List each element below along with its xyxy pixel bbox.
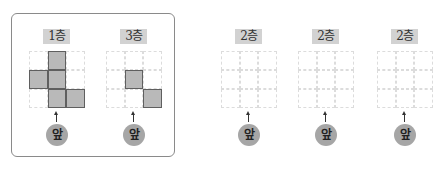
empty-grid-cell [240,51,259,70]
filled-cube-cell [29,70,48,89]
empty-grid-cell [29,89,48,108]
empty-grid-cell [317,89,336,108]
up-arrow-icon [325,113,326,122]
empty-grid-cell [377,70,396,89]
front-marker: 앞 [315,124,337,146]
filled-cube-cell [48,70,67,89]
empty-grid-cell [298,89,317,108]
floor-grid [377,51,433,108]
empty-grid-cell [240,89,259,108]
empty-grid-cell [106,70,125,89]
front-marker: 앞 [394,124,416,146]
floor-panel: 2층앞 [376,0,436,169]
up-arrow-icon [56,113,57,122]
filled-cube-cell [143,89,162,108]
empty-grid-cell [221,89,240,108]
floor-panel: 1층앞 [28,0,88,169]
empty-grid-cell [258,89,277,108]
filled-cube-cell [48,51,67,70]
front-marker: 앞 [123,124,145,146]
empty-grid-cell [221,51,240,70]
empty-grid-cell [377,89,396,108]
filled-cube-cell [125,70,144,89]
floor-panel: 2층앞 [220,0,280,169]
empty-grid-cell [258,70,277,89]
empty-grid-cell [317,51,336,70]
empty-grid-cell [396,51,415,70]
floor-label: 3층 [120,29,147,44]
empty-grid-cell [335,51,354,70]
empty-grid-cell [414,70,433,89]
empty-grid-cell [66,70,85,89]
empty-grid-cell [143,51,162,70]
floor-label: 1층 [43,29,70,44]
empty-grid-cell [298,70,317,89]
floor-grid [106,51,162,108]
empty-grid-cell [396,89,415,108]
front-marker: 앞 [46,124,68,146]
floor-label: 2층 [312,29,339,44]
empty-grid-cell [377,51,396,70]
empty-grid-cell [396,70,415,89]
empty-grid-cell [125,51,144,70]
up-arrow-icon [404,113,405,122]
floor-panel: 2층앞 [297,0,357,169]
front-marker: 앞 [238,124,260,146]
empty-grid-cell [143,70,162,89]
empty-grid-cell [335,89,354,108]
empty-grid-cell [125,89,144,108]
empty-grid-cell [258,51,277,70]
floor-grid [221,51,277,108]
floor-grid [29,51,85,108]
empty-grid-cell [29,51,48,70]
empty-grid-cell [414,51,433,70]
empty-grid-cell [414,89,433,108]
empty-grid-cell [317,70,336,89]
empty-grid-cell [106,51,125,70]
empty-grid-cell [335,70,354,89]
floor-panel: 3층앞 [105,0,165,169]
empty-grid-cell [106,89,125,108]
up-arrow-icon [248,113,249,122]
filled-cube-cell [66,89,85,108]
floor-label: 2층 [391,29,418,44]
filled-cube-cell [48,89,67,108]
floor-grid [298,51,354,108]
empty-grid-cell [298,51,317,70]
floor-label: 2층 [235,29,262,44]
empty-grid-cell [221,70,240,89]
empty-grid-cell [66,51,85,70]
empty-grid-cell [240,70,259,89]
up-arrow-icon [133,113,134,122]
